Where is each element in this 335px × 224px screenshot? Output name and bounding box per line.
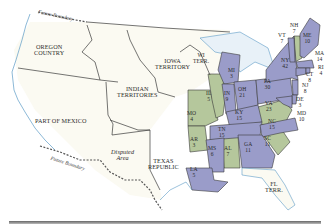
state-label-RI: RI4 xyxy=(318,65,324,77)
state-label-AL: AL7 xyxy=(224,146,232,158)
state-MA xyxy=(296,60,314,68)
state-label-SC: SC11 xyxy=(264,136,271,148)
state-label-MD: MD10 xyxy=(297,111,306,123)
state-label-DE: DE3 xyxy=(296,97,304,109)
state-label-ME: ME10 xyxy=(303,33,312,45)
state-label-NJ: NJ8 xyxy=(302,83,308,95)
label-iowa-territory: IOWATERRITORY xyxy=(155,58,190,71)
state-label-NH: NH7 xyxy=(290,23,298,35)
label-fl-territory: FLTERR. xyxy=(265,181,283,194)
state-label-MI: MI3 xyxy=(228,68,235,80)
label-wi-territory: WITERR. xyxy=(193,53,209,65)
state-label-MO: MO4 xyxy=(187,111,196,123)
state-label-TN: TN15 xyxy=(218,127,226,139)
state-label-VA: VA23 xyxy=(265,101,273,113)
state-label-IL: IL5 xyxy=(206,91,211,103)
label-indian-territories: INDIANTERRITORIES xyxy=(117,86,158,99)
gulf-coast xyxy=(160,182,192,200)
state-label-PA: PA30 xyxy=(264,79,271,91)
label-part-of-mexico: PART OF MEXICO xyxy=(35,118,87,124)
state-label-VT: VT7 xyxy=(278,33,286,45)
state-label-IN: IN9 xyxy=(224,91,230,103)
label-texas-republic: TEXASREPUBLIC xyxy=(148,158,179,171)
label-disputed-area: DisputedArea xyxy=(111,149,134,162)
legend-divider xyxy=(9,221,321,224)
state-CT xyxy=(296,68,306,76)
state-label-MA: MA14 xyxy=(315,51,324,63)
state-label-LA: LA5 xyxy=(190,167,198,179)
state-label-AR: AR3 xyxy=(190,137,198,149)
state-label-NC: NC15 xyxy=(268,119,276,131)
state-label-GA: GA11 xyxy=(244,142,252,154)
state-label-KY: KY15 xyxy=(235,110,243,122)
state-label-MS: MS6 xyxy=(208,146,216,158)
state-label-NY: NY42 xyxy=(281,58,289,70)
state-NJ xyxy=(292,80,298,95)
state-label-OH: OH21 xyxy=(238,87,246,99)
label-oregon-country: OREGONCOUNTRY xyxy=(34,44,64,57)
